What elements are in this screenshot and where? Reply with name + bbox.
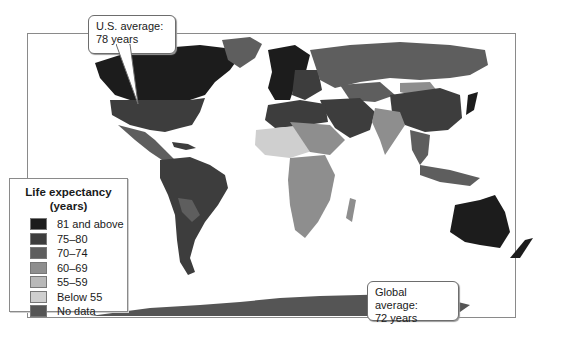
region-new-zealand — [510, 238, 533, 258]
global-average-value: 72 years — [375, 312, 451, 325]
region-southern-africa — [288, 155, 335, 238]
region-russia — [310, 42, 488, 88]
legend-swatch — [30, 262, 47, 274]
legend-title-line2: (years) — [10, 199, 127, 213]
legend-item: 75–80 — [30, 232, 127, 247]
legend-title-line1: Life expectancy — [10, 185, 127, 199]
region-indonesia — [420, 165, 480, 186]
legend-title: Life expectancy (years) — [10, 185, 127, 213]
region-eastern-europe — [292, 70, 322, 100]
legend-item: 70–74 — [30, 246, 127, 261]
legend-swatch — [30, 305, 47, 317]
us-callout-pointer — [116, 44, 146, 114]
global-average-callout: Global average: 72 years — [367, 281, 459, 321]
region-india — [372, 108, 405, 155]
legend-label: 60–69 — [57, 262, 88, 274]
legend-swatch — [30, 247, 47, 259]
global-average-label: Global average: — [375, 286, 451, 312]
legend-label: 75–80 — [57, 233, 88, 245]
legend-swatch — [30, 218, 47, 230]
legend-item: No data — [30, 304, 127, 319]
legend-label: 81 and above — [57, 218, 124, 230]
legend-swatch — [30, 276, 47, 288]
legend-label: No data — [57, 305, 96, 317]
region-japan — [466, 92, 478, 115]
region-caribbean — [172, 142, 196, 150]
legend: Life expectancy (years) 81 and above 75–… — [9, 178, 128, 312]
legend-label: Below 55 — [57, 291, 102, 303]
legend-item: 81 and above — [30, 217, 127, 232]
region-madagascar — [346, 198, 356, 222]
legend-swatch — [30, 233, 47, 245]
legend-item: 55–59 — [30, 275, 127, 290]
legend-item: Below 55 — [30, 290, 127, 305]
us-average-label: U.S. average: — [96, 20, 168, 33]
region-southeast-asia — [410, 130, 430, 165]
legend-label: 70–74 — [57, 247, 88, 259]
legend-label: 55–59 — [57, 276, 88, 288]
legend-item: 60–69 — [30, 261, 127, 276]
legend-swatch — [30, 291, 47, 303]
region-australia — [450, 195, 510, 248]
